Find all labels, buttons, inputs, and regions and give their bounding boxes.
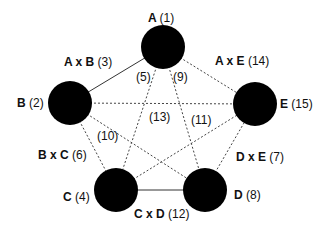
edge-label-a-b: A x B (3) <box>64 55 112 69</box>
node-b <box>48 81 92 125</box>
edge-label-b-c: B x C (6) <box>38 148 87 162</box>
node-d <box>183 168 227 212</box>
edge-label-d-e: D x E (7) <box>236 150 284 164</box>
edge-label-b-e: (13) <box>149 110 170 124</box>
node-label-e: E (15) <box>280 97 313 111</box>
edge-label-c-e: (11) <box>191 113 211 127</box>
edge-label-b-d: (10) <box>97 129 118 143</box>
edge-label-a-d: (9) <box>173 70 188 84</box>
edge-label-c-d: C x D (12) <box>134 207 189 221</box>
node-e <box>233 82 277 126</box>
node-label-c: C (4) <box>63 190 90 204</box>
edge-b-e <box>70 103 255 104</box>
edge-label-a-c: (5) <box>136 70 151 84</box>
node-c <box>94 168 138 212</box>
node-label-b: B (2) <box>17 96 44 110</box>
node-label-a: A (1) <box>148 11 174 25</box>
node-a <box>141 25 185 69</box>
edge-label-a-e: A x E (14) <box>215 54 269 68</box>
node-label-d: D (8) <box>234 188 261 202</box>
